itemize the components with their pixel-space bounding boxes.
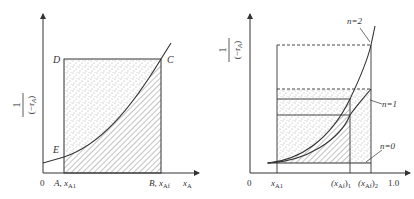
label-n2: n=2 <box>347 16 363 26</box>
svg-text:1: 1 <box>11 103 22 108</box>
tick-label-xA1: xA1 <box>270 178 283 189</box>
tick-label-A: A, xA1 <box>53 178 76 189</box>
x-axis-label: xA <box>182 178 192 189</box>
tick-label-xAf1: (xAf)1 <box>331 178 351 189</box>
reactor-design-diagram: 1 (−rA) D C E 0 A, xA1 B, xAf xA <box>0 0 414 199</box>
label-E: E <box>52 144 59 155</box>
label-C: C <box>167 54 174 65</box>
svg-text:1: 1 <box>217 48 228 53</box>
svg-text:(−rA): (−rA) <box>26 96 38 114</box>
origin-label: 0 <box>247 178 252 188</box>
left-panel: 1 (−rA) D C E 0 A, xA1 B, xAf xA <box>11 14 199 189</box>
right-panel: 1 (−rA) n=2 n=1 n=0 0 xA1 (xAf)1 (xAf)2 … <box>217 14 410 189</box>
label-n1: n=1 <box>382 99 397 109</box>
tick-label-B: B, xAf <box>149 178 171 189</box>
y-axis-label: 1 (−rA) <box>11 93 38 117</box>
origin-label: 0 <box>40 178 45 188</box>
y-axis-label: 1 (−rA) <box>217 38 244 62</box>
svg-text:(−rA): (−rA) <box>232 41 244 59</box>
label-n0: n=0 <box>380 141 396 151</box>
leader-n2 <box>360 28 370 42</box>
tick-label-xAf2: (xAf)2 <box>358 178 378 189</box>
label-D: D <box>52 54 61 65</box>
leader-n1 <box>370 100 382 104</box>
tick-label-end: 1.0 <box>388 178 400 188</box>
